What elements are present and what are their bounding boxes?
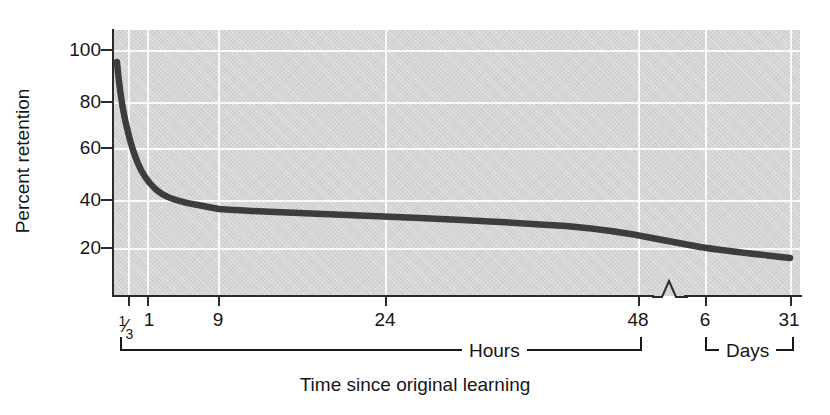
x-tick-48-hours [638,296,640,306]
x-tick-24-hours [385,296,387,306]
y-axis-tick-labels: 100 80 60 40 20 [46,0,101,415]
y-tick-label-80: 80 [55,92,101,111]
hours-bracket-bar [122,349,640,351]
gridline-vertical-31-days [790,30,792,296]
plot-area [114,30,800,296]
y-tick-label-20: 20 [55,238,101,257]
hours-bracket: Hours [120,337,642,351]
y-tick-40 [101,199,112,201]
y-tick-label-100: 100 [55,40,101,59]
page-bleed-text [0,404,830,415]
x-axis-caption: Time since original learning [0,374,830,396]
y-axis-title: Percent retention [12,46,34,276]
x-tick-label-6-days: 6 [700,310,711,330]
gridline-horizontal-40 [114,200,800,202]
days-bracket-label: Days [719,340,776,362]
days-bracket: Days [705,337,794,351]
x-tick-third-hour [128,296,130,306]
gridline-vertical-9-hours [218,30,220,296]
x-axis-line-hours [114,295,654,297]
gridline-vertical-1-hour [147,30,149,296]
gridline-horizontal-100 [114,50,800,52]
gridline-horizontal-80 [114,102,800,104]
x-tick-label-31-days: 31 [778,310,799,330]
gridline-vertical-third-hour [128,30,130,296]
y-axis-line [112,29,114,297]
x-tick-label-24-hours: 24 [374,310,395,330]
y-tick-20 [101,247,112,249]
y-tick-label-40: 40 [55,190,101,209]
gridline-horizontal-20 [114,248,800,250]
x-tick-1-hour [147,296,149,306]
hours-bracket-label: Hours [462,340,527,362]
y-tick-100 [101,49,112,51]
y-tick-80 [101,101,112,103]
x-tick-6-days [705,296,707,306]
x-axis-line-days [684,295,802,297]
y-tick-label-60: 60 [55,138,101,157]
x-tick-label-9-hours: 9 [213,310,224,330]
x-tick-9-hours [218,296,220,306]
gridline-vertical-48-hours [638,30,640,296]
forgetting-curve-figure: 100 80 60 40 20 Percent retention 1⁄3 1 … [0,0,830,415]
gridline-vertical-24-hours [385,30,387,296]
x-tick-label-48-hours: 48 [627,310,648,330]
gridline-vertical-6-days [705,30,707,296]
y-tick-60 [101,147,112,149]
x-tick-label-1-hour: 1 [144,310,155,330]
gridline-horizontal-60 [114,148,800,150]
x-tick-31-days [790,296,792,306]
axis-break-icon [652,277,688,299]
